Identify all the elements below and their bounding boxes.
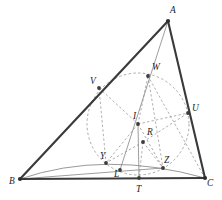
label-w: W <box>152 62 161 72</box>
label-t: T <box>136 184 142 194</box>
label-u: U <box>192 103 200 113</box>
triangle-side-ca <box>168 21 205 178</box>
label-l: L <box>113 169 119 179</box>
triangle-side-bc <box>20 178 205 179</box>
diagram-canvas: ABCVWUIRYLZT <box>0 0 222 200</box>
point-i <box>136 122 140 126</box>
point-v <box>97 86 101 90</box>
point-labels-group: ABCVWUIRYLZT <box>9 5 214 194</box>
point-u <box>186 111 190 115</box>
dashed-segment-w-z <box>148 76 163 168</box>
point-t <box>137 176 141 180</box>
dashed-segment-r-z <box>143 142 163 168</box>
point-r <box>141 140 145 144</box>
point-dots-group <box>18 19 207 181</box>
dashed-segment-r-t <box>139 142 143 178</box>
label-r: R <box>146 127 153 137</box>
dashed-segment-i-u <box>138 113 188 124</box>
point-w <box>146 74 150 78</box>
label-c: C <box>207 178 214 188</box>
point-b <box>18 177 22 181</box>
label-a: A <box>169 5 176 15</box>
label-v: V <box>90 76 97 86</box>
triangle-sides-group <box>20 21 205 179</box>
point-a <box>166 19 170 23</box>
triangle-side-ab <box>20 21 168 179</box>
label-z: Z <box>164 155 170 165</box>
dashed-segment-r-y <box>106 142 143 163</box>
point-z <box>161 166 165 170</box>
thin-segment-a-w-l <box>120 21 168 170</box>
label-y: Y <box>100 151 107 161</box>
point-y <box>104 161 108 165</box>
dashed-segment-i-w <box>138 76 148 124</box>
label-b: B <box>9 176 15 186</box>
geometry-diagram: ABCVWUIRYLZT <box>0 0 222 200</box>
